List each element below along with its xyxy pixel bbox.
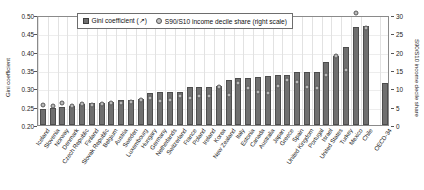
s90s10-marker[interactable] xyxy=(275,83,280,88)
s90s10-marker[interactable] xyxy=(128,100,133,105)
gini-bar[interactable] xyxy=(363,26,369,125)
gini-bar[interactable] xyxy=(255,77,261,125)
s90s10-marker[interactable] xyxy=(314,86,319,91)
bar-group[interactable] xyxy=(138,15,144,125)
gini-bar[interactable] xyxy=(304,72,310,125)
bar-group[interactable] xyxy=(157,15,163,125)
bar-group[interactable] xyxy=(59,15,65,125)
s90s10-marker[interactable] xyxy=(216,84,221,89)
right-tick-label: 20 xyxy=(396,49,403,56)
bar-group[interactable] xyxy=(187,15,193,125)
s90s10-marker[interactable] xyxy=(40,103,45,108)
s90s10-marker[interactable] xyxy=(50,103,55,108)
bar-group[interactable] xyxy=(147,15,153,125)
s90s10-marker[interactable] xyxy=(236,81,241,86)
bar-group[interactable] xyxy=(118,15,124,125)
gini-bar[interactable] xyxy=(216,86,222,125)
gini-bar[interactable] xyxy=(245,78,251,125)
bar-group[interactable] xyxy=(177,15,183,125)
s90s10-marker[interactable] xyxy=(158,98,163,103)
s90s10-marker[interactable] xyxy=(295,80,300,85)
s90s10-marker[interactable] xyxy=(109,101,114,106)
bar-group[interactable] xyxy=(382,15,388,125)
gini-bar[interactable] xyxy=(69,106,75,125)
s90s10-marker[interactable] xyxy=(167,98,172,103)
gini-bar[interactable] xyxy=(333,56,339,125)
bar-group[interactable] xyxy=(167,15,173,125)
bar-group[interactable] xyxy=(108,15,114,125)
gridline-vertical xyxy=(302,17,303,125)
s90s10-marker[interactable] xyxy=(334,54,339,59)
gini-bar[interactable] xyxy=(314,72,320,125)
s90s10-marker[interactable] xyxy=(265,90,270,95)
bar-group[interactable] xyxy=(353,15,359,125)
bar-group[interactable] xyxy=(235,15,241,125)
s90s10-marker[interactable] xyxy=(324,73,329,78)
bar-group[interactable] xyxy=(40,15,46,125)
gini-bar[interactable] xyxy=(382,83,388,125)
bar-group[interactable] xyxy=(304,15,310,125)
s90s10-marker[interactable] xyxy=(70,103,75,108)
s90s10-marker[interactable] xyxy=(246,86,251,91)
gini-bar[interactable] xyxy=(353,27,359,125)
bar-group[interactable] xyxy=(343,15,349,125)
gini-bar[interactable] xyxy=(187,87,193,125)
gini-bar[interactable] xyxy=(265,76,271,125)
s90s10-marker[interactable] xyxy=(187,95,192,100)
bar-group[interactable] xyxy=(99,15,105,125)
bar-group[interactable] xyxy=(216,15,222,125)
s90s10-marker[interactable] xyxy=(353,11,358,16)
bar-group[interactable] xyxy=(363,15,369,125)
bar-group[interactable] xyxy=(50,15,56,125)
gini-bar[interactable] xyxy=(138,99,144,125)
bar-group[interactable] xyxy=(294,15,300,125)
gini-bar[interactable] xyxy=(343,47,349,125)
bar-group[interactable] xyxy=(284,15,290,125)
s90s10-marker[interactable] xyxy=(285,77,290,82)
bar-group[interactable] xyxy=(206,15,212,125)
gini-bar[interactable] xyxy=(40,109,46,125)
s90s10-marker[interactable] xyxy=(148,96,153,101)
s90s10-marker[interactable] xyxy=(79,102,84,107)
s90s10-marker[interactable] xyxy=(207,93,212,98)
bar-group[interactable] xyxy=(245,15,251,125)
bar-group[interactable] xyxy=(196,15,202,125)
gini-bar[interactable] xyxy=(59,107,65,125)
right-tick-label: 5 xyxy=(396,104,400,111)
s90s10-marker[interactable] xyxy=(60,100,65,105)
gridline-vertical xyxy=(116,17,117,125)
s90s10-marker[interactable] xyxy=(255,90,260,95)
gini-bar[interactable] xyxy=(50,108,56,125)
s90s10-marker[interactable] xyxy=(304,84,309,89)
s90s10-marker[interactable] xyxy=(177,94,182,99)
bar-group[interactable] xyxy=(226,15,232,125)
x-tick-label: OECD-34 xyxy=(372,127,392,152)
gridline-vertical xyxy=(67,17,68,125)
gini-bar[interactable] xyxy=(226,80,232,125)
left-tick-label: 0.50 xyxy=(22,13,34,20)
gini-bar[interactable] xyxy=(157,92,163,125)
s90s10-marker[interactable] xyxy=(138,97,143,102)
bar-group[interactable] xyxy=(323,15,329,125)
bar-group[interactable] xyxy=(69,15,75,125)
bar-group[interactable] xyxy=(314,15,320,125)
gridline-vertical xyxy=(126,17,127,125)
s90s10-marker[interactable] xyxy=(197,93,202,98)
left-tick-label: 0.35 xyxy=(22,68,34,75)
gini-bar[interactable] xyxy=(79,104,85,125)
bar-group[interactable] xyxy=(79,15,85,125)
s90s10-marker[interactable] xyxy=(226,93,231,98)
bar-group[interactable] xyxy=(89,15,95,125)
bar-group[interactable] xyxy=(128,15,134,125)
bar-group[interactable] xyxy=(275,15,281,125)
s90s10-marker[interactable] xyxy=(89,102,94,107)
left-tick-label: 0.45 xyxy=(22,31,34,38)
bar-group[interactable] xyxy=(333,15,339,125)
s90s10-marker[interactable] xyxy=(343,68,348,73)
s90s10-marker[interactable] xyxy=(99,102,104,107)
bar-group[interactable] xyxy=(255,15,261,125)
gridline-vertical xyxy=(214,17,215,125)
s90s10-marker[interactable] xyxy=(119,101,124,106)
bar-group[interactable] xyxy=(265,15,271,125)
s90s10-marker[interactable] xyxy=(363,25,368,30)
